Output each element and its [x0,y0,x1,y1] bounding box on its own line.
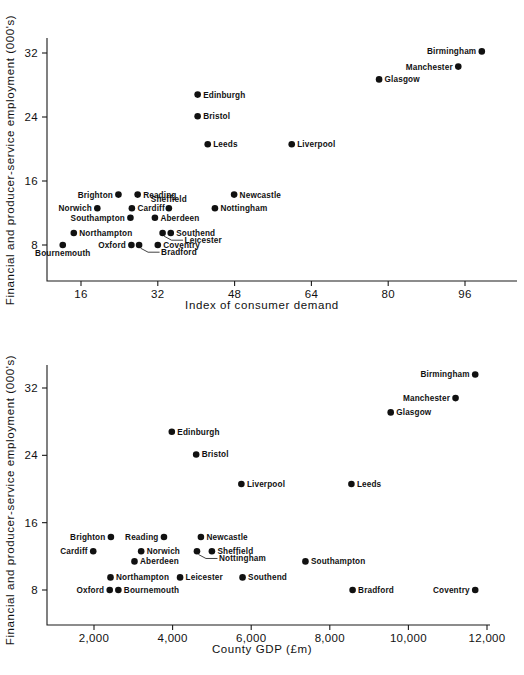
point-marker [115,191,122,198]
data-point: Cardiff [60,547,96,556]
data-point: Norwich [58,204,100,213]
point-label: Cardiff [60,547,88,556]
point-marker [238,481,245,488]
point-marker [166,205,173,212]
point-marker [131,558,138,565]
point-label: Liverpool [247,480,285,489]
data-point: Southampton [71,214,134,223]
point-label: Southend [176,229,215,238]
point-marker [472,587,479,594]
data-point: Liverpool [288,140,335,149]
x-tick-label: 80 [381,288,394,300]
data-point: Manchester [403,394,459,403]
point-label: Sheffield [217,547,253,556]
point-marker [194,548,201,555]
point-marker [129,205,136,212]
point-marker [479,48,486,55]
point-label: Edinburgh [177,428,219,437]
point-marker [198,534,205,541]
point-label: Bradford [358,586,394,595]
point-label: Glasgow [385,75,421,84]
point-label: Reading [125,533,158,542]
x-tick-label: 96 [458,288,471,300]
data-point: Leeds [348,480,382,489]
x-tick-label: 12,000 [469,632,506,644]
x-tick-label: 2,000 [79,632,109,644]
point-marker [349,587,356,594]
point-marker [169,428,176,435]
point-marker [177,574,184,581]
data-point: Aberdeen [152,214,200,223]
y-tick-label: 24 [25,111,39,123]
point-marker [127,215,134,222]
point-label: Northampton [79,229,132,238]
data-point: Brighton [78,191,122,200]
data-point: Bristol [194,112,230,121]
chart-canvas-top: 8162432163248648096Index of consumer dem… [0,0,524,340]
data-point: Bristol [193,450,229,459]
point-label: Southend [248,573,287,582]
point-marker [152,215,159,222]
data-point: Reading [125,533,167,542]
point-label: Oxford [76,586,104,595]
axis-lines [47,365,490,625]
chart-canvas-bottom: 81624322,0004,0006,0008,00010,00012,000C… [0,340,524,675]
data-point: Edinburgh [169,428,220,437]
point-label: Edinburgh [203,91,245,100]
point-marker [472,371,479,378]
point-marker [107,574,114,581]
y-axis-title: Financial and producer-service employmen… [4,355,16,645]
point-marker [71,230,78,237]
y-tick-label: 16 [25,175,38,187]
x-tick-label: 16 [74,288,87,300]
data-point: Leeds [204,140,238,149]
y-tick-label: 32 [25,47,38,59]
point-label: Leeds [213,140,238,149]
point-label: Aberdeen [160,214,199,223]
data-point: Glasgow [387,408,431,417]
point-marker [348,481,355,488]
point-marker [194,91,201,98]
data-point: Bournemouth [35,242,90,258]
data-point: Bournemouth [115,586,179,595]
point-label: Birmingham [420,370,469,379]
point-marker [108,534,115,541]
point-marker [138,548,145,555]
y-tick-label: 8 [31,584,38,596]
scatter-chart-consumer-demand: 8162432163248648096Index of consumer dem… [0,0,524,340]
point-label: Sheffield [151,195,187,204]
point-marker [204,141,211,148]
y-tick-label: 32 [25,382,38,394]
point-label: Bristol [203,112,230,121]
data-point: Birmingham [427,47,485,56]
point-marker [90,548,97,555]
point-label: Leeds [357,480,382,489]
point-marker [302,558,309,565]
data-point: Brighton [70,533,114,542]
x-tick-label: 32 [151,288,164,300]
data-point: Birmingham [420,370,478,379]
point-label: Newcastle [240,191,282,200]
data-point: Oxford [98,241,135,250]
point-marker [387,409,394,416]
data-point: Glasgow [376,75,420,84]
data-point: Newcastle [231,191,281,200]
point-marker [159,230,166,237]
point-marker [209,548,216,555]
point-marker [136,242,143,249]
point-marker [134,191,141,198]
point-label: Southampton [71,214,125,223]
point-label: Northampton [116,573,169,582]
data-point: Aberdeen [131,557,179,566]
point-marker [376,76,383,83]
point-label: Coventry [163,241,200,250]
point-label: Manchester [406,63,454,72]
point-label: Birmingham [427,47,476,56]
y-tick-label: 24 [25,449,39,461]
point-label: Liverpool [297,140,335,149]
point-label: Southampton [311,557,365,566]
data-point: Newcastle [198,533,248,542]
point-label: Newcastle [206,533,248,542]
point-label: Norwich [147,547,180,556]
x-tick-label: 10,000 [390,632,427,644]
